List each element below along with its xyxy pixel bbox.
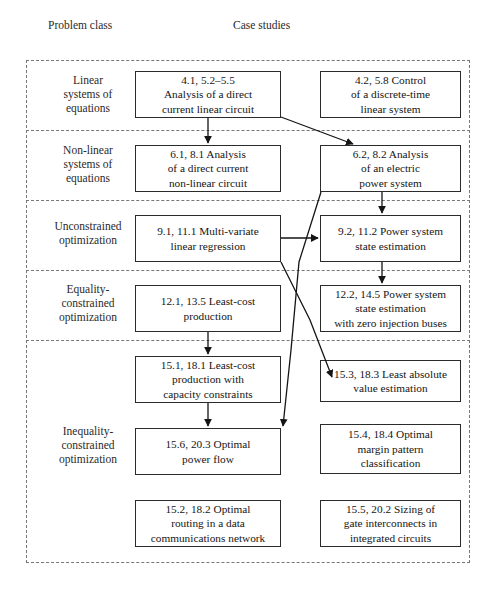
- diagram-page: Problem class Case studies Linearsystems…: [0, 0, 494, 592]
- case-box-label: 12.2, 14.5 Power systemstate estimationw…: [325, 287, 456, 331]
- case-box-15-4[interactable]: 15.4, 18.4 Optimalmargin patternclassifi…: [320, 424, 461, 474]
- case-box-label: 15.1, 18.1 Least-costproduction withcapa…: [140, 358, 276, 402]
- class-label-unconstrained: Unconstrainedoptimization: [36, 219, 140, 247]
- case-box-15-6[interactable]: 15.6, 20.3 Optimalpower flow: [135, 428, 281, 475]
- class-label-non-linear-systems: Non-linearsystems ofequations: [36, 143, 140, 185]
- case-box-9-1[interactable]: 9.1, 11.1 Multi-variatelinear regression: [135, 215, 281, 262]
- case-box-label: 4.2, 5.8 Controlof a discrete-timelinear…: [325, 73, 456, 117]
- row-divider-1: [26, 130, 470, 131]
- case-box-15-2[interactable]: 15.2, 18.2 Optimalrouting in a datacommu…: [135, 500, 281, 547]
- case-box-label: 15.6, 20.3 Optimalpower flow: [140, 437, 276, 466]
- case-box-label: 15.5, 20.2 Sizing ofgate interconnects i…: [325, 502, 456, 546]
- case-box-label: 6.1, 8.1 Analysisof a direct currentnon-…: [140, 147, 276, 191]
- case-box-label: 9.2, 11.2 Power systemstate estimation: [325, 224, 456, 253]
- case-box-9-2[interactable]: 9.2, 11.2 Power systemstate estimation: [320, 215, 461, 262]
- case-box-4-2[interactable]: 4.2, 5.8 Controlof a discrete-timelinear…: [320, 71, 461, 118]
- case-box-15-3[interactable]: 15.3, 18.3 Least absolutevalue estimatio…: [320, 360, 461, 402]
- case-box-12-2[interactable]: 12.2, 14.5 Power systemstate estimationw…: [320, 285, 461, 332]
- case-box-4-1[interactable]: 4.1, 5.2–5.5Analysis of a directcurrent …: [135, 71, 281, 118]
- case-box-label: 15.3, 18.3 Least absolutevalue estimatio…: [325, 367, 456, 396]
- column-header-problem-class: Problem class: [48, 19, 112, 31]
- column-header-case-studies: Case studies: [233, 19, 290, 31]
- case-box-label: 12.1, 13.5 Least-costproduction: [140, 294, 276, 323]
- case-box-label: 9.1, 11.1 Multi-variatelinear regression: [140, 224, 276, 253]
- case-box-label: 15.4, 18.4 Optimalmargin patternclassifi…: [325, 427, 456, 471]
- class-label-linear-systems: Linearsystems ofequations: [36, 73, 140, 115]
- case-box-6-2[interactable]: 6.2, 8.2 Analysisof an electricpower sys…: [320, 145, 461, 192]
- class-label-inequality-constrained: Inequality-constrainedoptimization: [36, 424, 140, 466]
- case-box-12-1[interactable]: 12.1, 13.5 Least-costproduction: [135, 285, 281, 332]
- case-box-15-1[interactable]: 15.1, 18.1 Least-costproduction withcapa…: [135, 356, 281, 403]
- case-box-label: 15.2, 18.2 Optimalrouting in a datacommu…: [140, 502, 276, 546]
- case-box-6-1[interactable]: 6.1, 8.1 Analysisof a direct currentnon-…: [135, 145, 281, 192]
- case-box-label: 6.2, 8.2 Analysisof an electricpower sys…: [325, 147, 456, 191]
- row-divider-3: [26, 270, 470, 271]
- case-box-label: 4.1, 5.2–5.5Analysis of a directcurrent …: [140, 73, 276, 117]
- class-label-equality-constrained: Equality-constrainedoptimization: [36, 282, 140, 324]
- row-divider-2: [26, 200, 470, 201]
- row-divider-4: [26, 340, 470, 341]
- case-box-15-5[interactable]: 15.5, 20.2 Sizing ofgate interconnects i…: [320, 500, 461, 547]
